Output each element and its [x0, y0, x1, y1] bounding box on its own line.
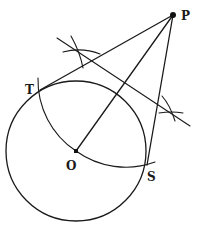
- label-t: T: [25, 83, 34, 97]
- point-o-dot: [74, 149, 78, 153]
- label-o: O: [66, 159, 76, 173]
- tangent-line-pt: [40, 15, 173, 90]
- construction-arc-upper-1: [63, 50, 100, 54]
- label-s: S: [147, 170, 156, 184]
- tangent-construction-diagram: P T O S: [0, 0, 200, 226]
- perpendicular-bisector-line: [57, 38, 190, 126]
- label-p: P: [181, 9, 190, 23]
- construction-arc-upper-2: [71, 36, 83, 68]
- point-p-dot: [170, 12, 176, 18]
- tangent-line-ps: [147, 15, 173, 165]
